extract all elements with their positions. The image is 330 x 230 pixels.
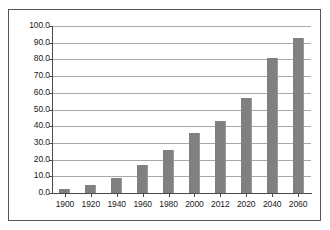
y-tick-label-90.0: 90.0 — [34, 38, 50, 47]
bar-1980 — [163, 150, 174, 193]
x-tick-mark-1940 — [117, 194, 118, 197]
x-tick-mark-2060 — [298, 194, 299, 197]
y-tick-mark-50.0 — [49, 110, 52, 111]
y-tick-label-30.0: 30.0 — [34, 138, 50, 147]
y-tick-label-40.0: 40.0 — [34, 121, 50, 130]
x-tick-mark-2020 — [246, 194, 247, 197]
x-tick-mark-2012 — [220, 194, 221, 197]
bar-2000 — [189, 133, 200, 193]
x-tick-mark-1920 — [91, 194, 92, 197]
y-tick-mark-10.0 — [49, 176, 52, 177]
bar-1920 — [85, 185, 96, 193]
bar-2040 — [267, 58, 278, 193]
y-tick-label-80.0: 80.0 — [34, 54, 50, 63]
y-tick-mark-60.0 — [49, 93, 52, 94]
y-tick-mark-90.0 — [49, 43, 52, 44]
y-tick-mark-80.0 — [49, 59, 52, 60]
y-tick-mark-30.0 — [49, 143, 52, 144]
x-tick-mark-1960 — [143, 194, 144, 197]
gridline-100.0 — [52, 26, 311, 27]
bar-1960 — [137, 165, 148, 193]
x-tick-mark-2040 — [272, 194, 273, 197]
y-tick-mark-70.0 — [49, 76, 52, 77]
y-tick-label-20.0: 20.0 — [34, 155, 50, 164]
y-tick-label-10.0: 10.0 — [34, 171, 50, 180]
plot-area — [52, 26, 311, 193]
x-tick-mark-1980 — [169, 194, 170, 197]
x-tick-mark-2000 — [194, 194, 195, 197]
y-tick-label-70.0: 70.0 — [34, 71, 50, 80]
x-tick-label-2060: 2060 — [282, 199, 314, 209]
y-axis-line — [52, 26, 53, 194]
x-tick-mark-1900 — [65, 194, 66, 197]
bar-2060 — [293, 38, 304, 193]
y-axis-tick-labels: 0.010.020.030.040.050.060.070.080.090.01… — [10, 0, 50, 230]
y-tick-label-60.0: 60.0 — [34, 88, 50, 97]
bar-2012 — [215, 121, 226, 193]
y-tick-mark-0.0 — [49, 193, 52, 194]
y-tick-label-100.0: 100.0 — [29, 21, 50, 30]
y-tick-mark-40.0 — [49, 126, 52, 127]
bar-1940 — [111, 178, 122, 193]
bar-chart-figure: 0.010.020.030.040.050.060.070.080.090.01… — [0, 0, 330, 230]
bar-2020 — [241, 98, 252, 193]
y-tick-label-50.0: 50.0 — [34, 105, 50, 114]
gridline-90.0 — [52, 43, 311, 44]
y-tick-mark-20.0 — [49, 160, 52, 161]
y-tick-mark-100.0 — [49, 26, 52, 27]
